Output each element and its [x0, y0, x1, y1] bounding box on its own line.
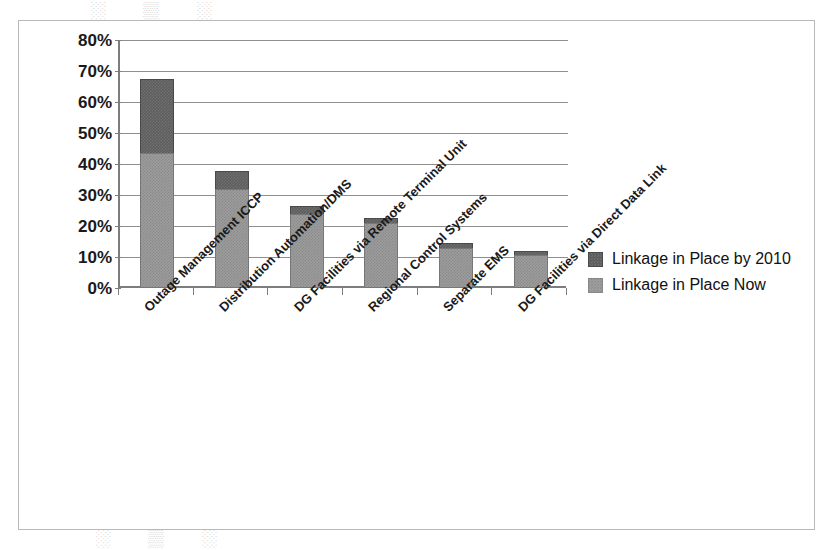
x-tick-mark	[193, 288, 194, 295]
bar-stack	[514, 40, 548, 288]
bar-segment-linkage-by-2010	[140, 79, 174, 153]
y-axis-tick-label: 20%	[54, 218, 112, 235]
legend-label: Linkage in Place Now	[612, 276, 766, 294]
x-tick-mark	[417, 288, 418, 295]
y-tick-mark	[115, 102, 121, 103]
y-tick-mark	[115, 71, 121, 72]
y-axis-tick-label: 50%	[54, 125, 112, 142]
y-axis-tick-label: 30%	[54, 187, 112, 204]
y-tick-mark	[115, 164, 121, 165]
x-tick-mark	[566, 288, 567, 295]
y-axis-labels: 80%70%60%50%40%30%20%10%0%	[50, 0, 112, 550]
bar-segment-linkage-by-2010	[514, 251, 548, 256]
chart-legend: Linkage in Place by 2010Linkage in Place…	[588, 246, 818, 298]
gridline	[120, 102, 568, 103]
stacked-bar-chart: 80%70%60%50%40%30%20%10%0% Outage Manage…	[0, 0, 831, 550]
gridline	[120, 40, 568, 41]
legend-item: Linkage in Place Now	[588, 272, 818, 298]
y-axis-tick-label: 0%	[54, 280, 112, 297]
y-tick-mark	[115, 40, 121, 41]
y-axis-tick-label: 10%	[54, 249, 112, 266]
x-tick-mark	[118, 288, 119, 295]
x-tick-mark	[267, 288, 268, 295]
bar-stack	[290, 40, 324, 288]
bar-stack	[364, 40, 398, 288]
legend-label: Linkage in Place by 2010	[612, 250, 791, 268]
y-axis-tick-label: 70%	[54, 63, 112, 80]
bar-segment-linkage-now	[140, 153, 174, 288]
gridline	[120, 226, 568, 227]
y-tick-mark	[115, 257, 121, 258]
bar-stack	[140, 40, 174, 288]
bar-stack	[215, 40, 249, 288]
y-axis-tick-label: 80%	[54, 32, 112, 49]
legend-swatch-icon	[588, 278, 603, 293]
y-tick-mark	[115, 226, 121, 227]
legend-item: Linkage in Place by 2010	[588, 246, 818, 272]
bar-segment-linkage-by-2010	[215, 171, 249, 189]
gridline	[120, 133, 568, 134]
x-tick-mark	[491, 288, 492, 295]
y-tick-mark	[115, 195, 121, 196]
gridline	[120, 164, 568, 165]
y-axis-tick-label: 40%	[54, 156, 112, 173]
x-tick-mark	[342, 288, 343, 295]
gridline	[120, 71, 568, 72]
y-axis-tick-label: 60%	[54, 94, 112, 111]
legend-swatch-icon	[588, 252, 603, 267]
y-tick-mark	[115, 133, 121, 134]
